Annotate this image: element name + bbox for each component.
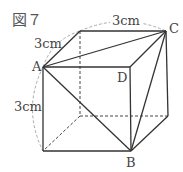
dimension-label-top: 3cm [110, 14, 142, 27]
vertex-label-c: C [169, 22, 179, 35]
vertex-label-a: A [32, 60, 41, 73]
vertex-label-b: B [126, 156, 136, 169]
dimension-label-depth: 3cm [34, 37, 62, 50]
vertex-label-d: D [117, 71, 127, 84]
cube-diagram [0, 0, 183, 172]
dimension-label-height: 3cm [14, 100, 42, 113]
